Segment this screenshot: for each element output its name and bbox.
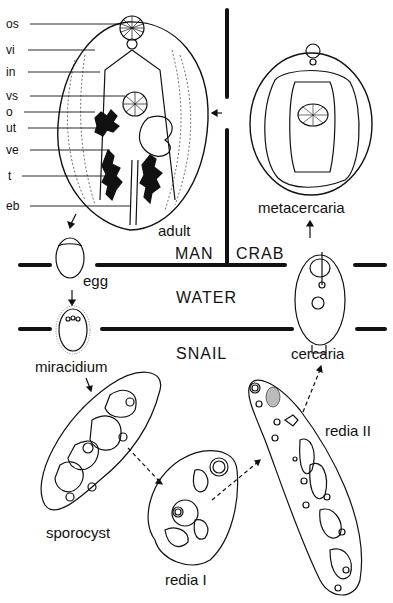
label-vs: vs — [6, 90, 18, 102]
stage-redia-2: redia II — [325, 423, 371, 438]
redia-2 — [249, 380, 362, 595]
miracidium — [56, 306, 90, 354]
cercaria — [295, 252, 345, 353]
host-man: MAN — [175, 246, 214, 262]
label-t: t — [8, 170, 11, 182]
host-crab: CRAB — [236, 246, 284, 262]
host-snail: SNAIL — [176, 346, 227, 362]
stage-egg: egg — [83, 273, 108, 288]
label-vi: vi — [6, 44, 15, 56]
label-in: in — [6, 66, 15, 78]
label-ut: ut — [6, 122, 16, 134]
stage-cercaria: cercaria — [291, 346, 344, 361]
label-os: os — [6, 18, 19, 30]
stage-metacercaria: metacercaria — [258, 200, 345, 215]
metacercaria — [250, 44, 372, 195]
label-eb: eb — [6, 200, 19, 212]
adult-fluke — [22, 16, 208, 230]
stage-sporocyst: sporocyst — [46, 525, 110, 540]
redia-1 — [148, 451, 237, 565]
host-water: WATER — [176, 290, 237, 306]
label-ve: ve — [6, 144, 19, 156]
stage-miracidium: miracidium — [35, 359, 108, 374]
label-o: o — [6, 106, 13, 118]
egg — [56, 238, 84, 278]
stage-redia-1: redia I — [165, 572, 207, 587]
stage-adult: adult — [158, 223, 191, 238]
sporocyst — [41, 372, 161, 510]
